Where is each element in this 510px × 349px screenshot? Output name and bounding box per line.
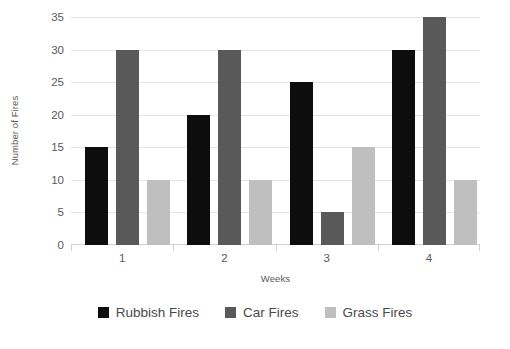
bar-group (71, 17, 173, 245)
y-axis-tick-label: 35 (51, 11, 64, 23)
x-axis-separator (378, 245, 379, 251)
x-axis-tick-label: 4 (426, 252, 432, 264)
bar-group (378, 17, 480, 245)
legend-swatch-icon (325, 307, 336, 318)
legend-item[interactable]: Car Fires (225, 305, 299, 320)
legend-item[interactable]: Rubbish Fires (98, 305, 199, 320)
legend-label: Car Fires (243, 305, 299, 320)
bar (290, 82, 313, 245)
legend-swatch-icon (98, 307, 109, 318)
bar (392, 50, 415, 245)
x-axis-separator (276, 245, 277, 251)
bar (423, 17, 446, 245)
bar-group (276, 17, 378, 245)
bar (249, 180, 272, 245)
bar (352, 147, 375, 245)
bar (147, 180, 170, 245)
legend-swatch-icon (225, 307, 236, 318)
x-axis-separator (71, 245, 72, 251)
chart-legend: Rubbish FiresCar FiresGrass Fires (0, 305, 510, 320)
y-axis-title: Number of Fires (0, 0, 30, 260)
y-axis-tick-labels: 05101520253035 (30, 17, 70, 245)
y-axis-tick-label: 0 (58, 239, 64, 251)
bar (218, 50, 241, 245)
x-axis-separators (71, 245, 480, 251)
y-axis-tick-label: 30 (51, 44, 64, 56)
legend-label: Rubbish Fires (116, 305, 199, 320)
y-axis-tick-label: 15 (51, 141, 64, 153)
x-axis-tick-label: 2 (221, 252, 227, 264)
legend-item[interactable]: Grass Fires (325, 305, 413, 320)
plot-area (71, 17, 480, 245)
y-axis-tick-label: 5 (58, 206, 64, 218)
y-axis-tick-label: 25 (51, 76, 64, 88)
x-axis-separator (173, 245, 174, 251)
y-axis-title-text: Number of Fires (10, 95, 21, 165)
x-axis-tick-labels: 1234 (71, 252, 480, 272)
bar-group (173, 17, 275, 245)
bar-chart: Number of Fires 05101520253035 1234 Week… (0, 0, 510, 349)
x-axis-separator (479, 245, 480, 251)
y-axis-tick-label: 20 (51, 109, 64, 121)
x-axis-tick-label: 1 (119, 252, 125, 264)
y-axis-tick-label: 10 (51, 174, 64, 186)
bar (321, 212, 344, 245)
bar (116, 50, 139, 245)
x-axis-tick-label: 3 (323, 252, 329, 264)
legend-label: Grass Fires (343, 305, 413, 320)
bar (187, 115, 210, 245)
bar (85, 147, 108, 245)
x-axis-title: Weeks (71, 273, 480, 284)
bar (454, 180, 477, 245)
